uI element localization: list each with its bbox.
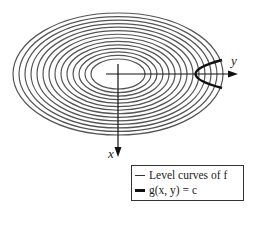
thin-line-icon xyxy=(135,175,145,176)
legend-item-level-curves: Level curves of f xyxy=(135,168,243,183)
y-axis-label: y xyxy=(231,53,237,69)
legend-item-constraint: g(x, y) = c xyxy=(135,183,243,198)
legend-label: g(x, y) = c xyxy=(149,183,197,198)
legend: Level curves of f g(x, y) = c xyxy=(131,165,244,201)
legend-label: Level curves of f xyxy=(149,168,227,183)
thick-line-icon xyxy=(135,189,145,192)
y-axis-arrow-icon xyxy=(228,71,238,78)
x-axis-arrow-icon xyxy=(115,147,122,157)
x-axis-label: x xyxy=(108,146,114,162)
